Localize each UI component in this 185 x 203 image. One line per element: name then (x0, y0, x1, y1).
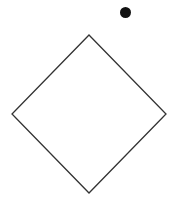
diamond-shape (12, 35, 166, 193)
diagram-canvas (0, 0, 185, 203)
dot-marker (120, 7, 131, 18)
